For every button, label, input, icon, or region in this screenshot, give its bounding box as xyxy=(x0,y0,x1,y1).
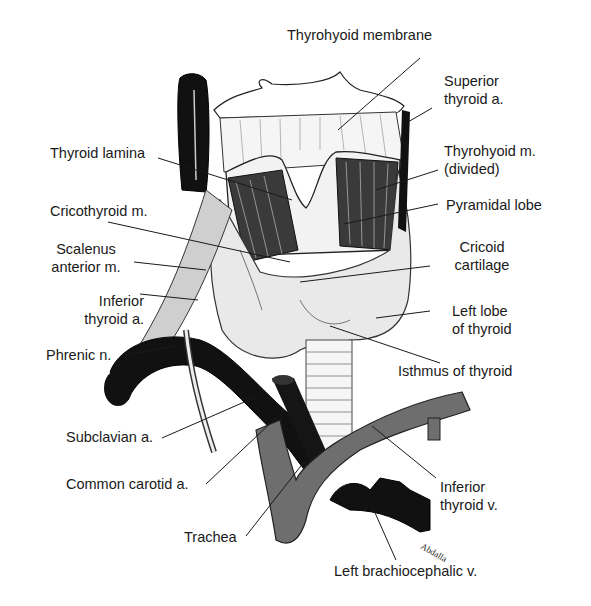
label-isthmus-of-thyroid: Isthmus of thyroid xyxy=(398,362,512,380)
label-line: anterior m. xyxy=(44,258,128,276)
label-thyroid-lamina: Thyroid lamina xyxy=(50,144,145,162)
label-inferior-thyroid-artery: Inferior thyroid a. xyxy=(64,292,144,328)
label-thyrohyoid-membrane: Thyrohyoid membrane xyxy=(287,26,432,44)
label-line: Scalenus xyxy=(44,240,128,258)
label-line: thyroid v. xyxy=(440,496,498,514)
label-common-carotid-artery: Common carotid a. xyxy=(66,475,189,493)
label-line: Inferior xyxy=(64,292,144,310)
label-inferior-thyroid-vein: Inferior thyroid v. xyxy=(440,478,498,514)
label-subclavian-artery: Subclavian a. xyxy=(66,428,153,446)
label-line: (divided) xyxy=(444,160,536,178)
subclavian-carotid-shape xyxy=(104,337,330,480)
label-pyramidal-lobe: Pyramidal lobe xyxy=(446,196,542,214)
label-scalenus-anterior-muscle: Scalenus anterior m. xyxy=(44,240,128,276)
label-left-lobe-of-thyroid: Left lobe of thyroid xyxy=(452,302,512,338)
artist-signature: Abdalla xyxy=(419,541,449,564)
label-line: Inferior xyxy=(440,478,498,496)
label-cricothyroid-muscle: Cricothyroid m. xyxy=(50,202,148,220)
label-line: cartilage xyxy=(450,256,514,274)
label-trachea: Trachea xyxy=(184,528,237,546)
label-thyrohyoid-muscle: Thyrohyoid m. (divided) xyxy=(444,142,536,178)
label-line: of thyroid xyxy=(452,320,512,338)
label-line: Left lobe xyxy=(452,302,512,320)
label-line: Thyrohyoid m. xyxy=(444,142,536,160)
label-cricoid-cartilage: Cricoid cartilage xyxy=(450,238,514,274)
label-left-brachiocephalic-vein: Left brachiocephalic v. xyxy=(334,562,477,580)
label-line: thyroid a. xyxy=(444,90,504,108)
label-line: Superior xyxy=(444,72,504,90)
label-line: thyroid a. xyxy=(64,310,144,328)
label-superior-thyroid-artery: Superior thyroid a. xyxy=(444,72,504,108)
label-phrenic-nerve: Phrenic n. xyxy=(46,346,111,364)
label-line: Cricoid xyxy=(450,238,514,256)
